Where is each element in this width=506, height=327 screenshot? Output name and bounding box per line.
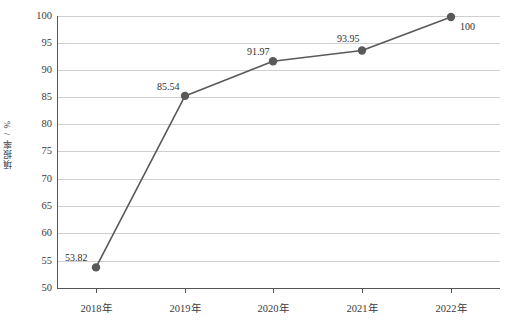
data-label-2022: 100 — [460, 21, 475, 32]
line-chart: 填报率 / % 100 95 90 85 80 75 70 65 60 55 5… — [0, 0, 506, 327]
x-tick-label-2020: 2020年 — [238, 300, 308, 315]
data-point-2019 — [181, 92, 189, 100]
data-label-2018: 53.82 — [65, 252, 88, 263]
x-tick-label-2022: 2022年 — [416, 300, 486, 315]
x-tick-label-2018: 2018年 — [61, 300, 131, 315]
data-label-2019: 85.54 — [157, 81, 180, 92]
data-point-2020 — [269, 57, 277, 65]
data-markers — [92, 13, 455, 272]
data-line — [96, 17, 451, 267]
x-tick-label-2019: 2019年 — [150, 300, 220, 315]
data-point-2022 — [447, 13, 455, 21]
data-point-2021 — [358, 46, 366, 54]
gridlines — [57, 17, 500, 262]
data-point-2018 — [92, 263, 100, 271]
data-label-2020: 91.97 — [247, 46, 270, 57]
x-tick-label-2021: 2021年 — [327, 300, 397, 315]
data-label-2021: 93.95 — [337, 33, 360, 44]
